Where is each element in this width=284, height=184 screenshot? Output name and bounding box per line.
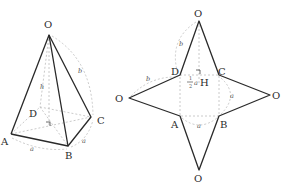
fraction-den: 2 [189,83,192,89]
label-a-side: a [82,137,86,145]
label-bottom-a: a [197,122,201,130]
center-label-H: H [200,77,209,88]
label-top-b: b [179,40,183,48]
apex-label-top: O [194,8,202,19]
diagonal-DB [40,107,68,146]
apex-label-bottom: O [194,173,202,184]
vertex-label-C: C [218,66,226,77]
fraction-var: a [194,79,198,87]
diagram-canvas: O A B C D h b a a O O O O D C A B 1 2 a [0,0,284,184]
pyramid: O A B C D h b a a [0,19,105,161]
apex-label-right: O [272,90,280,101]
label-a-front: a [30,145,34,153]
vertex-label-B: B [220,119,227,130]
arc-b [52,36,93,115]
label-left-b: b [146,75,150,83]
net-outline [129,21,270,170]
vertex-label-D: D [171,66,179,77]
apex-label-left: O [115,93,123,104]
face-OBC [49,35,91,146]
label-h: h [40,83,44,91]
fraction-num: 1 [189,75,192,81]
vertex-label-O: O [44,19,52,30]
right-angle-marker [46,122,50,126]
vertex-label-A: A [0,136,9,147]
label-right-a: a [230,92,234,100]
pyramid-net: O O O O D C A B 1 2 a H b b a a [115,8,280,184]
label-b: b [78,67,82,75]
vertex-label-D: D [29,108,37,119]
hidden-edge-DC [40,107,91,117]
vertex-label-B: B [65,150,72,161]
vertex-label-A: A [170,119,179,130]
vertex-label-C: C [97,115,105,126]
